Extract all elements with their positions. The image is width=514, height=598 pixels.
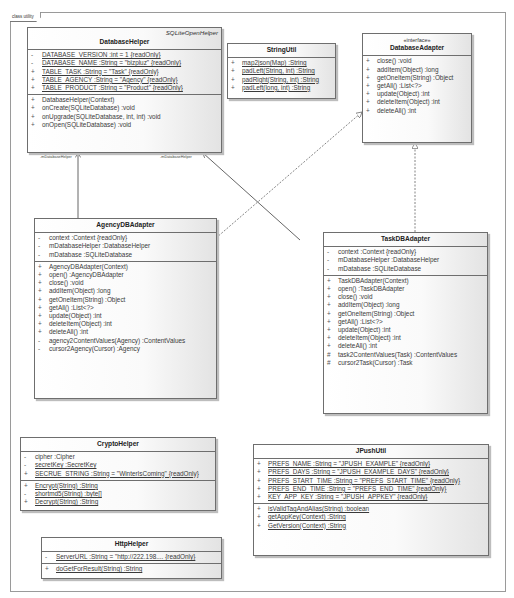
operation-row[interactable]: +deleteAll() :int: [324, 342, 487, 350]
operation-row[interactable]: +TaskDBAdapter(Context): [324, 277, 487, 285]
operation-row[interactable]: +isValidTagAndAlias(String) :boolean: [254, 505, 488, 513]
attribute-row[interactable]: -mDatabase :SQLiteDatabase: [35, 251, 216, 259]
attribute-row[interactable]: -mDatabaseHelper :DatabaseHelper: [35, 242, 216, 250]
attribute-text: TABLE_TASK :String = "Task" {readOnly}: [42, 68, 159, 76]
operation-row[interactable]: +close() :void: [363, 57, 471, 65]
attribute-row[interactable]: -DATABASE_VERSION :int = 1 {readOnly}: [28, 51, 221, 59]
operation-row[interactable]: +doGetForResult(String) :String: [42, 565, 221, 573]
class-header: «interface» DatabaseAdapter: [363, 34, 471, 56]
operation-text: getAll() :List<?>: [338, 318, 383, 326]
operation-row[interactable]: +addItem(Object) :long: [35, 287, 216, 295]
attribute-row[interactable]: -context :Context {readOnly}: [324, 248, 487, 256]
class-jpush-util[interactable]: JPushUtil +PREFS_NAME :String = "JPUSH_E…: [253, 444, 489, 556]
class-name: CryptoHelper: [23, 440, 213, 448]
operation-row[interactable]: #task2ContentValues(Task) :ContentValues: [324, 351, 487, 359]
attribute-row[interactable]: +PREFS_NAME :String = "JPUSH_EXAMPLE" {r…: [254, 460, 488, 468]
operation-row[interactable]: #cursor2Task(Cursor) :Task: [324, 359, 487, 367]
attribute-row[interactable]: -cipher :Cipher: [21, 453, 215, 461]
operation-row[interactable]: +getAppKey(Context) :String: [254, 513, 488, 521]
operation-row[interactable]: +map2json(Map) :String: [228, 59, 335, 67]
visibility-marker: +: [257, 505, 268, 513]
visibility-marker: +: [24, 470, 35, 478]
class-crypto-helper[interactable]: CryptoHelper -cipher :Cipher-secretKey :…: [20, 437, 216, 511]
class-http-helper[interactable]: HttpHelper -ServerURL :String = "http://…: [41, 537, 222, 579]
class-agency-db-adapter[interactable]: AgencyDBAdapter -context :Context {readO…: [34, 218, 217, 399]
attribute-row[interactable]: +SECRUE_STRING :String = "WinterIsComing…: [21, 470, 215, 478]
attributes-compartment: -DATABASE_VERSION :int = 1 {readOnly}-DA…: [28, 50, 221, 94]
attribute-row[interactable]: +PREFS_END_TIME :String = "PREFS_END_TIM…: [254, 485, 488, 493]
operation-row[interactable]: -cursor2Agency(Cursor) :Agency: [35, 345, 216, 353]
attribute-row[interactable]: +KEY_APP_KEY :String = "JPUSH_APPKEY" {r…: [254, 493, 488, 501]
operation-row[interactable]: +update(Object) :int: [363, 90, 471, 98]
operation-row[interactable]: +DatabaseHelper(Context): [28, 96, 221, 104]
operation-row[interactable]: +getAll() :List<?>: [324, 318, 487, 326]
operation-row[interactable]: +deleteAll() :int: [363, 107, 471, 115]
attribute-row[interactable]: +TABLE_AGENCY :String = "Agency" {readOn…: [28, 76, 221, 84]
operation-row[interactable]: +padLeft(long, int) :String: [228, 84, 335, 92]
visibility-marker: +: [327, 301, 338, 309]
visibility-marker: -: [24, 490, 35, 498]
operation-row[interactable]: +deleteItem(Object) :int: [35, 320, 216, 328]
attribute-row[interactable]: +TABLE_TASK :String = "Task" {readOnly}: [28, 68, 221, 76]
operation-row[interactable]: +deleteAll() :int: [35, 328, 216, 336]
visibility-marker: +: [31, 113, 42, 121]
attribute-text: DATABASE_VERSION :int = 1 {readOnly}: [42, 51, 161, 59]
operation-row[interactable]: +update(Object) :int: [35, 312, 216, 320]
visibility-marker: +: [38, 287, 49, 295]
operation-row[interactable]: +getAll() :List<?>: [363, 82, 471, 90]
class-string-util[interactable]: StringUtil +map2json(Map) :String+padLef…: [227, 43, 336, 99]
attribute-row[interactable]: -secretKey :SecretKey: [21, 461, 215, 469]
operations-compartment: +close() :void+addItem(Object) :long+get…: [363, 56, 471, 116]
operation-text: deleteItem(Object) :int: [377, 98, 440, 106]
visibility-marker: +: [38, 271, 49, 279]
operation-row[interactable]: +onCreate(SQLiteDatabase) :void: [28, 104, 221, 112]
operation-row[interactable]: +deleteItem(Object) :int: [324, 334, 487, 342]
operation-row[interactable]: +padRight(String, int) :String: [228, 76, 335, 84]
operation-text: onUpgrade(SQLiteDatabase, int, int) :voi…: [42, 113, 161, 121]
class-database-adapter[interactable]: «interface» DatabaseAdapter +close() :vo…: [362, 33, 472, 143]
attribute-text: TABLE_AGENCY :String = "Agency" {readOnl…: [42, 76, 178, 84]
visibility-marker: +: [366, 90, 377, 98]
attribute-row[interactable]: -mDatabaseHelper :DatabaseHelper: [324, 256, 487, 264]
operation-row[interactable]: +getAll() :List<?>: [35, 304, 216, 312]
operation-row[interactable]: +addItem(Object) :long: [363, 66, 471, 74]
operation-row[interactable]: +getOneItem(String) :Object: [324, 310, 487, 318]
operation-row[interactable]: +getOneItem(String) :Object: [363, 74, 471, 82]
visibility-marker: +: [257, 477, 268, 485]
operation-row[interactable]: +Decrypt(String) :String: [21, 498, 215, 506]
operation-row[interactable]: +close() :void: [35, 279, 216, 287]
operation-text: padLeft(String, int) :String: [242, 67, 315, 75]
operation-row[interactable]: +open() :TaskDBAdapter: [324, 285, 487, 293]
operation-row[interactable]: +open() :AgencyDBAdapter: [35, 271, 216, 279]
operation-row[interactable]: -shortmd5(String) :byte[]: [21, 490, 215, 498]
class-task-db-adapter[interactable]: TaskDBAdapter -context :Context {readOnl…: [323, 232, 488, 414]
operation-row[interactable]: +onOpen(SQLiteDatabase) :void: [28, 121, 221, 129]
class-header: HttpHelper: [42, 538, 221, 552]
attribute-row[interactable]: +PREFS_DAYS :String = "JPUSH_EXAMPLE_DAY…: [254, 468, 488, 476]
operation-row[interactable]: +padLeft(String, int) :String: [228, 67, 335, 75]
attribute-row[interactable]: +TABLE_PRODUCT :String = "Product" {read…: [28, 84, 221, 92]
operation-row[interactable]: -agency2ContentValues(Agency) :ContentVa…: [35, 337, 216, 345]
operation-row[interactable]: +deleteItem(Object) :int: [363, 98, 471, 106]
attributes-compartment: -ServerURL :String = "http://222.198....…: [42, 552, 221, 563]
operation-row[interactable]: +onUpgrade(SQLiteDatabase, int, int) :vo…: [28, 113, 221, 121]
attribute-row[interactable]: -mDatabase :SQLiteDatabase: [324, 265, 487, 273]
visibility-marker: +: [366, 107, 377, 115]
operation-row[interactable]: +AgencyDBAdapter(Context): [35, 263, 216, 271]
operation-text: getAppKey(Context) :String: [268, 513, 346, 521]
operation-text: agency2ContentValues(Agency) :ContentVal…: [49, 337, 185, 345]
operation-row[interactable]: +Encrypt(String) :String: [21, 482, 215, 490]
attribute-row[interactable]: -context :Context {readOnly}: [35, 234, 216, 242]
operation-row[interactable]: +update(Object) :int: [324, 326, 487, 334]
role-label-task: -mDatabaseHelper: [160, 155, 192, 159]
attribute-row[interactable]: +PREFS_START_TIME :String = "PREFS_START…: [254, 477, 488, 485]
attribute-row[interactable]: -DATABASE_NAME :String = "bizpluz" {read…: [28, 59, 221, 67]
operation-row[interactable]: +GetVersion(Context) :String: [254, 522, 488, 530]
visibility-marker: +: [231, 84, 242, 92]
operation-row[interactable]: +close() :void: [324, 293, 487, 301]
attribute-row[interactable]: -ServerURL :String = "http://222.198....…: [42, 553, 221, 561]
operation-row[interactable]: +addItem(Object) :long: [324, 301, 487, 309]
operation-row[interactable]: +getOneItem(String) :Object: [35, 296, 216, 304]
visibility-marker: +: [31, 76, 42, 84]
class-database-helper[interactable]: SQLiteOpenHelper DatabaseHelper -DATABAS…: [27, 27, 222, 153]
